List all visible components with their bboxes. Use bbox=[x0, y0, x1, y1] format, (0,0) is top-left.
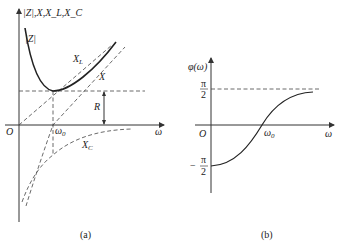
XC-curve bbox=[22, 129, 132, 202]
resonance-diagram: |Z|,X,X_L,X_C O ω ω0 |Z| XL X R XC (a) φ… bbox=[0, 0, 340, 251]
caption-b: (b) bbox=[261, 229, 273, 241]
figure-b: φ(ω) O ω ω0 π 2 − π 2 (b) bbox=[188, 58, 334, 241]
svg-text:π: π bbox=[201, 78, 206, 89]
svg-text:−: − bbox=[190, 160, 196, 171]
XL-line bbox=[19, 45, 112, 125]
svg-text:2: 2 bbox=[201, 89, 206, 100]
Z-label: |Z| bbox=[25, 33, 36, 44]
origin-label-b: O bbox=[199, 128, 206, 139]
X-curve bbox=[26, 47, 125, 206]
XL-label: XL bbox=[72, 53, 83, 66]
pi-half-label: π 2 bbox=[200, 78, 208, 100]
R-label: R bbox=[93, 101, 100, 112]
phase-curve bbox=[211, 92, 313, 166]
svg-text:π: π bbox=[201, 154, 206, 165]
X-label: X bbox=[98, 71, 106, 82]
svg-text:2: 2 bbox=[201, 166, 206, 177]
x-axis-label-b: ω bbox=[325, 128, 332, 139]
y-axis-label-a: |Z|,X,X_L,X_C bbox=[23, 7, 82, 18]
neg-pi-half-label: − π 2 bbox=[190, 154, 208, 177]
omega0-label-b: ω0 bbox=[264, 127, 275, 140]
caption-a: (a) bbox=[80, 229, 91, 241]
x-axis-label-a: ω bbox=[155, 126, 162, 137]
figure-a: |Z|,X,X_L,X_C O ω ω0 |Z| XL X R XC (a) bbox=[5, 7, 164, 241]
y-axis-label-b: φ(ω) bbox=[188, 61, 208, 73]
origin-label-a: O bbox=[6, 126, 13, 137]
XC-label: XC bbox=[81, 139, 93, 152]
omega0-label-a: ω0 bbox=[55, 125, 66, 138]
